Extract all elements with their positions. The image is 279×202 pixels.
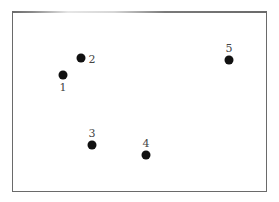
point-5 [225, 56, 234, 65]
point-4-label: 4 [143, 138, 150, 149]
point-1-label: 1 [60, 82, 67, 93]
point-1 [59, 71, 68, 80]
point-2-label: 2 [89, 54, 96, 65]
point-3-label: 3 [89, 128, 96, 139]
diagram-frame [12, 11, 267, 192]
point-2 [77, 54, 86, 63]
point-4 [142, 151, 151, 160]
point-3 [88, 141, 97, 150]
point-5-label: 5 [226, 43, 233, 54]
